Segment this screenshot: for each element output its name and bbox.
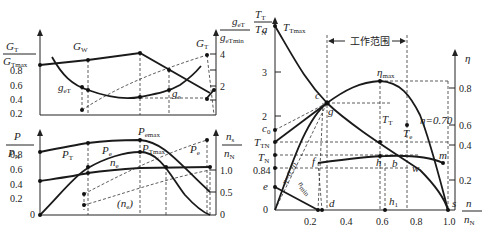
svg-text:0.5: 0.5 (220, 187, 233, 198)
svg-text:0.2: 0.2 (459, 175, 472, 186)
svg-text:n: n (466, 197, 472, 209)
svg-text:0: 0 (263, 204, 268, 215)
svg-text:ηmax: ηmax (377, 66, 395, 80)
svg-text:Te: Te (403, 127, 412, 141)
svg-text:m: m (439, 149, 447, 161)
svg-text:0.2: 0.2 (10, 193, 23, 204)
svg-text:TTmax: TTmax (283, 21, 306, 35)
svg-text:2: 2 (262, 111, 267, 122)
svg-text:nmin: nmin (295, 180, 313, 199)
svg-text:ne: ne (110, 156, 119, 170)
svg-text:η=0.70: η=0.70 (280, 161, 299, 186)
svg-text:0.4: 0.4 (10, 94, 23, 105)
svg-text:P: P (13, 130, 21, 142)
svg-text:c0: c0 (262, 122, 271, 136)
svg-text:Pe: Pe (189, 143, 200, 157)
svg-text:η: η (465, 52, 470, 64)
svg-text:0.8: 0.8 (10, 149, 23, 160)
svg-text:0.6: 0.6 (459, 120, 472, 131)
svg-text:0.8: 0.8 (10, 65, 23, 76)
svg-text:0.2: 0.2 (10, 108, 23, 119)
svg-text:3: 3 (262, 67, 267, 78)
working-range-label: 工作范围 (350, 35, 390, 47)
svg-text:4: 4 (220, 49, 225, 60)
svg-text:2: 2 (220, 81, 225, 92)
svg-text:h: h (376, 156, 382, 168)
svg-text:a: a (262, 23, 268, 35)
svg-text:TT: TT (255, 8, 266, 22)
svg-text:0.4: 0.4 (340, 216, 353, 227)
svg-text:b: b (392, 157, 398, 169)
svg-text:TT: TT (382, 113, 393, 127)
svg-text:PT: PT (61, 148, 74, 162)
svg-text:0.6: 0.6 (10, 164, 23, 175)
svg-text:geT: geT (232, 15, 246, 29)
svg-text:GT: GT (6, 40, 19, 54)
svg-text:s: s (452, 197, 456, 209)
svg-text:ns: ns (226, 130, 235, 144)
svg-text:GT: GT (196, 37, 209, 51)
bottom-left-panel: P PN ns nN 0.8 0.6 0.4 0.2 0 1.0 0.5 0 (6, 125, 242, 220)
svg-text:f: f (312, 155, 317, 167)
svg-text:ge: ge (172, 87, 181, 101)
svg-text:nN: nN (464, 213, 475, 227)
svg-text:c: c (315, 89, 320, 101)
svg-text:0.6: 0.6 (10, 80, 23, 91)
svg-text:0.4: 0.4 (459, 140, 472, 151)
svg-text:Pemax: Pemax (137, 125, 160, 139)
svg-text:w: w (412, 162, 420, 174)
svg-text:0.4: 0.4 (10, 179, 23, 190)
right-panel: TT TN η n nN 3 2 0.84 0 c0 TTN TN e a 0.… (253, 8, 482, 227)
svg-text:0.6: 0.6 (376, 216, 389, 227)
svg-text:0.84: 0.84 (253, 165, 271, 176)
svg-text:g: g (328, 105, 334, 117)
svg-text:(ne): (ne) (117, 197, 133, 211)
svg-text:0: 0 (30, 209, 35, 220)
svg-text:geT: geT (58, 81, 72, 95)
chart-canvas: GT GTmax geT geTmin 0.8 0.6 0.4 0.2 4 2 (0, 0, 490, 234)
svg-text:geTmin: geTmin (220, 31, 244, 45)
svg-text:TTN: TTN (254, 136, 269, 150)
svg-text:η=0.70: η=0.70 (420, 114, 453, 126)
svg-text:d: d (329, 197, 335, 209)
svg-text:0.8: 0.8 (410, 216, 423, 227)
svg-text:GW: GW (73, 40, 88, 54)
svg-text:h1: h1 (389, 195, 399, 209)
svg-text:1.0: 1.0 (443, 216, 456, 227)
svg-text:0.8: 0.8 (459, 83, 472, 94)
svg-text:TN: TN (258, 151, 269, 165)
svg-text:nN: nN (224, 147, 235, 161)
svg-text:1.0: 1.0 (220, 165, 233, 176)
top-left-panel: GT GTmax geT geTmin 0.8 0.6 0.4 0.2 4 2 (3, 15, 250, 119)
svg-text:e: e (263, 180, 268, 192)
svg-text:0.2: 0.2 (304, 216, 317, 227)
svg-text:0: 0 (220, 209, 225, 220)
